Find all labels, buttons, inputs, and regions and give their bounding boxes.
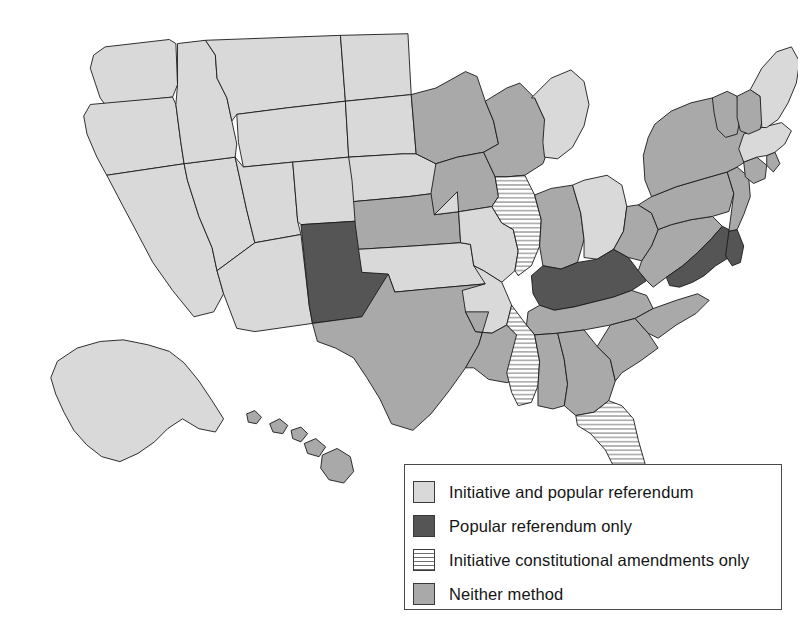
legend-row: Initiative and popular referendum bbox=[413, 475, 781, 509]
legend-swatch-horizontal-stripes bbox=[413, 549, 435, 571]
state-or: Oregon — Initiative and popular referend… bbox=[84, 97, 184, 175]
state-hi: Hawaii — Neither method bbox=[247, 411, 354, 483]
legend-row: Initiative constitutional amendments onl… bbox=[413, 543, 781, 577]
legend-swatch-light-gray bbox=[413, 481, 435, 503]
map-legend: Initiative and popular referendumPopular… bbox=[404, 464, 782, 610]
legend-label: Initiative and popular referendum bbox=[449, 483, 694, 502]
state-mn: Minnesota — Neither method bbox=[411, 72, 498, 164]
legend-row: Popular referendum only bbox=[413, 509, 781, 543]
legend-swatch-dark-gray bbox=[413, 515, 435, 537]
legend-label: Neither method bbox=[449, 585, 563, 604]
state-wa: Washington — Initiative and popular refe… bbox=[90, 39, 177, 104]
state-nd: North Dakota — Initiative and popular re… bbox=[340, 34, 411, 101]
state-de: Delaware — Popular referendum only bbox=[726, 230, 744, 266]
legend-swatch-medium-gray bbox=[413, 583, 435, 605]
state-ak: Alaska — Initiative and popular referend… bbox=[51, 340, 224, 462]
legend-row: Neither method bbox=[413, 577, 781, 611]
legend-label: Popular referendum only bbox=[449, 517, 632, 536]
state-sd: South Dakota — Initiative and popular re… bbox=[345, 95, 416, 158]
us-ballot-measure-map: Washington — Initiative and popular refe… bbox=[0, 0, 804, 643]
us-states-map: Washington — Initiative and popular refe… bbox=[8, 14, 798, 534]
legend-label: Initiative constitutional amendments onl… bbox=[449, 551, 749, 570]
